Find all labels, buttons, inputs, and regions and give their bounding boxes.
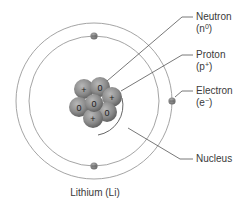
electron-symbol: (e−) [196,97,233,109]
electron-right [168,97,175,104]
svg-text:0: 0 [97,83,102,93]
svg-text:0: 0 [91,99,96,109]
electron-name: Electron [196,85,233,97]
nucleus: + 0 + 0 0 + 0 [69,77,122,128]
electron-leader-line [175,91,193,97]
electron-label: Electron (e−) [196,85,233,109]
svg-text:+: + [90,114,95,124]
neutron-label: Neutron (n0) [196,11,232,35]
proton-name: Proton [196,49,225,61]
svg-text:+: + [109,93,114,103]
nucleus-label: Nucleus [196,153,232,165]
neutron-leader-line [107,17,193,81]
svg-text:0: 0 [104,108,109,118]
electron-bottom [90,162,97,169]
svg-text:+: + [81,85,86,95]
electron-top [90,32,97,39]
neutron-name: Neutron [196,11,232,23]
proton-symbol: (p+) [196,61,225,73]
nucleus-leader-line [128,128,193,159]
diagram-caption: Lithium (Li) [50,187,140,198]
neutron-particle-center: 0 [85,94,103,112]
svg-text:0: 0 [76,103,81,113]
neutron-symbol: (n0) [196,23,232,35]
nucleus-name: Nucleus [196,153,232,165]
proton-label: Proton (p+) [196,49,225,73]
